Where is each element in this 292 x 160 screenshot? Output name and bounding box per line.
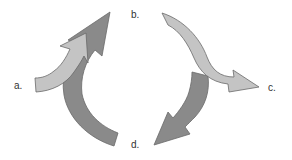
label-c: c. [268,83,276,93]
arrow-c-to-d [154,72,208,145]
arrow-d-to-b [63,12,118,146]
label-d: d. [131,140,139,150]
label-a: a. [14,81,22,91]
arrow-b-to-c [162,13,259,92]
label-b: b. [131,10,139,20]
arrows-layer [0,0,292,160]
cycle-diagram: b. a. c. d. [0,0,292,160]
